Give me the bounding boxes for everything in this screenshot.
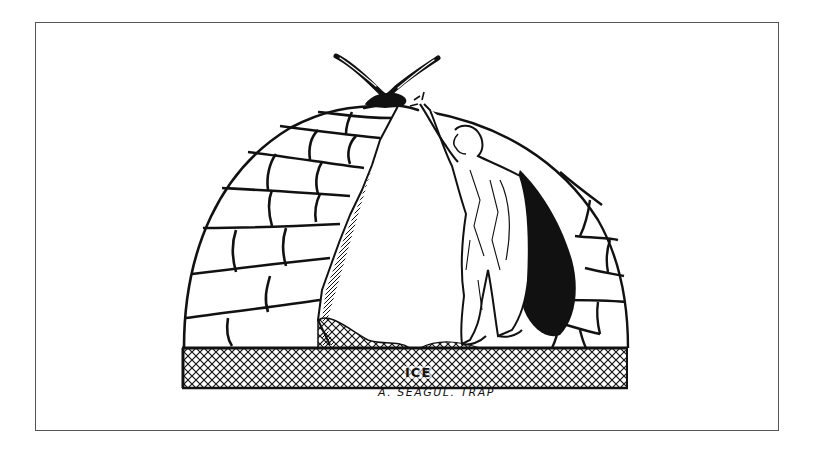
illustration-caption: A. SEAGUL. TRAP [378,386,495,399]
rubble [318,318,480,348]
ice-label: ICE [404,366,432,379]
igloo-left-wall [184,106,398,348]
seagull [336,56,438,110]
